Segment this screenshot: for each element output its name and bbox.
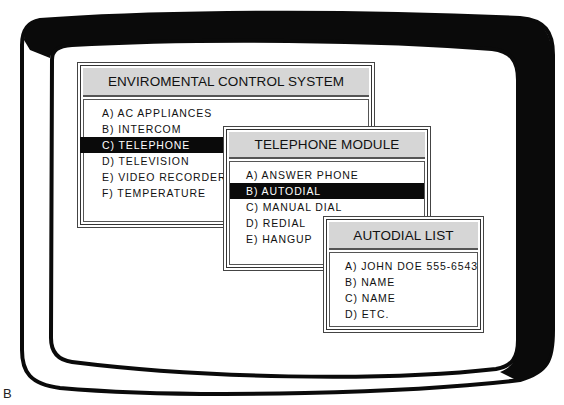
menu-item-manual-dial[interactable]: C) MANUAL DIAL <box>230 199 424 215</box>
contact-item-name-1[interactable]: B) NAME <box>330 274 477 290</box>
menu-item-answer-phone[interactable]: A) ANSWER PHONE <box>230 167 424 183</box>
window-title: ENVIROMENTAL CONTROL SYSTEM <box>108 74 344 89</box>
menu-item-ac-appliances[interactable]: A) AC APPLIANCES <box>84 105 368 121</box>
contact-item-name-2[interactable]: C) NAME <box>330 290 477 306</box>
window-title-bar: TELEPHONE MODULE <box>229 132 425 159</box>
contact-item-john-doe[interactable]: A) JOHN DOE 555-6543 <box>330 258 477 274</box>
window-title: TELEPHONE MODULE <box>255 137 400 152</box>
contact-list: A) JOHN DOE 555-6543 B) NAME C) NAME D) … <box>329 252 478 327</box>
menu-item-autodial[interactable]: B) AUTODIAL <box>230 183 424 199</box>
autodial-list-window: AUTODIAL LIST A) JOHN DOE 555-6543 B) NA… <box>326 219 481 330</box>
window-title-bar: ENVIROMENTAL CONTROL SYSTEM <box>83 68 369 97</box>
contact-item-etc[interactable]: D) ETC. <box>330 306 477 322</box>
window-title-bar: AUTODIAL LIST <box>329 222 478 250</box>
figure-label: B <box>3 386 12 401</box>
window-title: AUTODIAL LIST <box>353 228 453 243</box>
